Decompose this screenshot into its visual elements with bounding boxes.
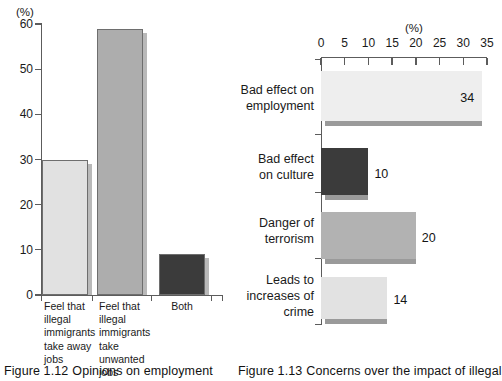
caption-text: Concerns over the impact of illegal (306, 364, 501, 378)
bar-shadow (325, 259, 416, 264)
x-axis-tick (368, 58, 369, 65)
label-line: illegal (99, 313, 155, 326)
bar (321, 212, 416, 259)
y-axis-tick-label: 0 (0, 288, 33, 302)
y-axis-tick (35, 114, 42, 115)
caption-figure-1-13: Figure 1.13Concerns over the impact of i… (238, 364, 502, 378)
bar-fill (321, 71, 482, 121)
bar-shadow (205, 258, 209, 295)
x-axis-tick-label: 25 (427, 36, 453, 50)
y-axis-category-label: Leads toincreases ofcrime (214, 272, 314, 320)
bar (321, 71, 482, 121)
label-line: Feel that (44, 300, 94, 313)
x-axis-tick (415, 58, 416, 65)
x-axis-category-label: Both (157, 300, 207, 313)
x-axis-tick-label: 5 (332, 36, 358, 50)
x-axis-unit-label: (%) (405, 22, 423, 34)
y-axis-tick-label: 60 (0, 17, 33, 31)
x-axis-tick (391, 58, 392, 65)
bar (321, 148, 368, 195)
chart-figure-1-13: (%) 05101520253035 34102014 Bad effect o… (212, 0, 494, 356)
y-axis-tick-label: 10 (0, 243, 33, 257)
label-line: immigrants (99, 326, 155, 339)
x-axis-tick-label: 15 (379, 36, 405, 50)
x-axis-line (41, 295, 222, 296)
x-axis-tick (486, 58, 487, 65)
label-line: take unwanted (99, 340, 155, 366)
label-line: Leads to (214, 272, 314, 288)
y-axis-tick (35, 249, 42, 250)
label-line: Danger of (214, 215, 314, 231)
bar-shadow (325, 319, 387, 324)
label-line: increases of (214, 288, 314, 304)
bar (321, 277, 387, 319)
bar-shadow (325, 195, 368, 200)
y-axis-tick (35, 23, 42, 24)
label-line: illegal (44, 313, 94, 326)
y-axis-tick (35, 69, 42, 70)
bar-fill (321, 212, 416, 259)
label-line: Both (157, 300, 207, 313)
bar-shadow (88, 164, 92, 296)
bar (159, 254, 205, 295)
bar-shadow (143, 33, 147, 295)
y-axis-tick (35, 204, 42, 205)
bar-fill (42, 160, 88, 296)
caption-figure-1-12: Figure 1.12Opinions on employment (4, 364, 213, 378)
bar-fill (321, 148, 368, 195)
bar-value-label: 10 (374, 167, 388, 181)
x-axis-tick (439, 58, 440, 65)
y-axis-tick (315, 324, 322, 325)
label-line: Bad effect (214, 151, 314, 167)
x-axis-tick-label: 20 (403, 36, 429, 50)
bar-value-label: 14 (393, 293, 407, 307)
bar-fill (321, 277, 387, 319)
bar-fill (159, 254, 205, 295)
y-axis-category-label: Danger ofterrorism (214, 215, 314, 247)
caption-number: Figure 1.13 (238, 364, 302, 378)
y-axis-category-label: Bad effecton culture (214, 151, 314, 183)
y-axis-tick-label: 50 (0, 62, 33, 76)
chart-figure-1-12: (%) 0102030405060 Feel thatillegalimmigr… (0, 0, 240, 356)
caption-number: Figure 1.12 (4, 364, 68, 378)
label-line: Bad effect on (214, 82, 314, 98)
x-axis-tick-label: 10 (355, 36, 381, 50)
bar (97, 29, 143, 295)
label-line: terrorism (214, 231, 314, 247)
y-axis-tick (315, 59, 322, 60)
x-axis-tick (344, 58, 345, 65)
label-line: Feel that (99, 300, 155, 313)
label-line: employment (214, 98, 314, 114)
y-axis-tick-label: 20 (0, 198, 33, 212)
y-axis-tick-label: 40 (0, 107, 33, 121)
label-line: take away (44, 340, 94, 353)
caption-text: Opinions on employment (72, 364, 212, 378)
x-axis-category-label: Feel thatillegalimmigrantstake awayjobs (44, 300, 94, 366)
label-line: immigrants (44, 326, 94, 339)
y-axis-tick (315, 134, 322, 135)
x-axis-tick (463, 58, 464, 65)
y-axis-category-label: Bad effect onemployment (214, 82, 314, 114)
y-axis-tick-label: 30 (0, 153, 33, 167)
x-axis-tick-label: 35 (474, 36, 500, 50)
bar-shadow (325, 121, 482, 126)
bar-value-label: 34 (460, 91, 474, 105)
bar-value-label: 20 (422, 231, 436, 245)
label-line: crime (214, 304, 314, 320)
x-axis-tick-label: 0 (308, 36, 334, 50)
label-line: on culture (214, 167, 314, 183)
bar (42, 160, 88, 296)
x-axis-tick-label: 30 (450, 36, 476, 50)
bar-fill (97, 29, 143, 295)
x-axis-tick (41, 295, 42, 301)
y-axis-tick (35, 159, 42, 160)
